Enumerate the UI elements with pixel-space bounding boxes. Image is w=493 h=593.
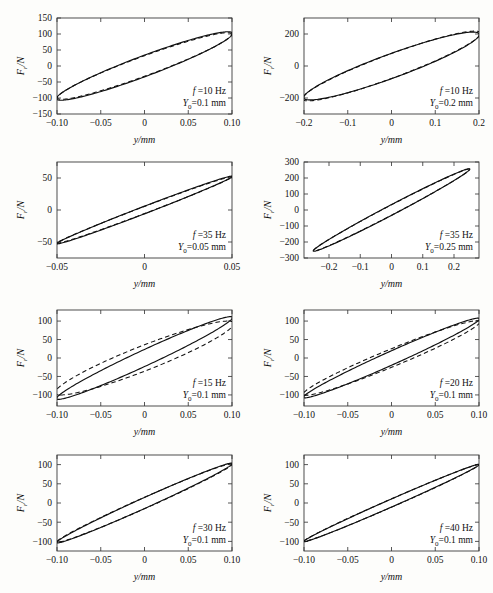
x-tick-label: 0.10 bbox=[224, 118, 241, 128]
plot-panel-panel-35hz-005: −0.0500.05−50050y/mmFr/Nf =35 HzY0=0.05 … bbox=[0, 148, 246, 296]
y-tick-label: −200 bbox=[279, 93, 299, 103]
y-tick-label: 200 bbox=[285, 173, 300, 183]
x-tick-label: 0.05 bbox=[180, 118, 197, 128]
x-tick-label: −0.05 bbox=[337, 555, 359, 565]
y-tick-label: 100 bbox=[285, 316, 300, 326]
y-tick-label: 100 bbox=[285, 460, 300, 470]
y-tick-label: 200 bbox=[285, 29, 300, 39]
y-tick-label: 0 bbox=[47, 498, 52, 508]
y-tick-label: −50 bbox=[37, 77, 52, 87]
y-tick-label: 0 bbox=[294, 205, 299, 215]
x-tick-label: −0.05 bbox=[46, 262, 68, 272]
y-axis-title: Fr/N bbox=[262, 493, 276, 514]
x-tick-label: 0.2 bbox=[448, 262, 460, 272]
x-tick-label: 0 bbox=[142, 262, 147, 272]
x-tick-label: 0.10 bbox=[471, 410, 488, 420]
y-tick-label: 0 bbox=[294, 61, 299, 71]
y-tick-label: 50 bbox=[43, 335, 53, 345]
y-tick-label: −300 bbox=[279, 253, 299, 263]
plot-panel-panel-15hz-01: −0.10−0.0500.050.10−100−50050100y/mmFr/N… bbox=[0, 296, 246, 444]
y-tick-label: −200 bbox=[279, 237, 299, 247]
x-tick-label: −0.10 bbox=[46, 555, 68, 565]
y-tick-label: −50 bbox=[37, 518, 52, 528]
panel-annotation: f =35 Hz bbox=[440, 230, 473, 240]
y-tick-label: 100 bbox=[38, 316, 53, 326]
y-tick-label: −50 bbox=[284, 518, 299, 528]
y-tick-label: 50 bbox=[290, 479, 300, 489]
y-axis-title: Fr/N bbox=[15, 493, 29, 514]
y-tick-label: −50 bbox=[37, 372, 52, 382]
x-tick-label: −0.10 bbox=[46, 118, 68, 128]
x-tick-label: 0.2 bbox=[473, 118, 485, 128]
y-axis-title: Fr/N bbox=[15, 348, 29, 369]
x-axis-title: y/mm bbox=[133, 426, 156, 437]
y-tick-label: 0 bbox=[294, 353, 299, 363]
x-tick-label: −0.05 bbox=[90, 555, 112, 565]
hysteresis-loop-figure: −0.10−0.0500.050.10−150−100−50050100150y… bbox=[0, 0, 493, 593]
y-tick-label: −100 bbox=[279, 221, 299, 231]
x-tick-label: −0.10 bbox=[46, 410, 68, 420]
y-axis-title: Fr/N bbox=[262, 200, 276, 221]
panel-annotation: f =10 Hz bbox=[193, 86, 226, 96]
panel-annotation: f =30 Hz bbox=[193, 523, 226, 533]
y-tick-label: 0 bbox=[294, 498, 299, 508]
panel-annotation: f =35 Hz bbox=[193, 230, 226, 240]
x-tick-label: 0.10 bbox=[224, 555, 241, 565]
panel-annotation: f =15 Hz bbox=[193, 378, 226, 388]
y-axis-title: Fr/N bbox=[262, 56, 276, 77]
y-tick-label: −100 bbox=[32, 390, 52, 400]
x-tick-label: −0.1 bbox=[339, 118, 356, 128]
y-tick-label: 100 bbox=[38, 29, 53, 39]
y-tick-label: 0 bbox=[47, 205, 52, 215]
y-tick-label: −100 bbox=[32, 537, 52, 547]
y-tick-label: −100 bbox=[279, 537, 299, 547]
x-tick-label: 0.1 bbox=[429, 118, 441, 128]
panel-annotation: f =40 Hz bbox=[440, 523, 473, 533]
y-tick-label: 100 bbox=[285, 189, 300, 199]
x-tick-label: −0.10 bbox=[293, 555, 315, 565]
x-tick-label: 0.05 bbox=[427, 410, 444, 420]
x-tick-label: 0 bbox=[389, 555, 394, 565]
y-tick-label: −150 bbox=[32, 109, 52, 119]
y-tick-label: 300 bbox=[285, 157, 300, 167]
y-axis-title: Fr/N bbox=[15, 200, 29, 221]
x-axis-title: y/mm bbox=[380, 278, 403, 289]
x-tick-label: 0.10 bbox=[224, 410, 241, 420]
x-tick-label: 0 bbox=[389, 118, 394, 128]
y-axis-title: Fr/N bbox=[262, 348, 276, 369]
y-tick-label: 50 bbox=[43, 45, 53, 55]
plot-panel-panel-10hz-02: −0.2−0.100.10.2−2000200y/mmFr/Nf =10 HzY… bbox=[247, 4, 493, 152]
y-tick-label: 0 bbox=[47, 61, 52, 71]
panel-annotation: f =20 Hz bbox=[440, 378, 473, 388]
y-tick-label: 50 bbox=[43, 173, 53, 183]
y-axis-title: Fr/N bbox=[15, 56, 29, 77]
x-tick-label: 0.05 bbox=[180, 410, 197, 420]
x-axis-title: y/mm bbox=[133, 571, 156, 582]
y-tick-label: 50 bbox=[43, 479, 53, 489]
y-tick-label: −50 bbox=[284, 372, 299, 382]
x-axis-title: y/mm bbox=[133, 134, 156, 145]
x-tick-label: 0 bbox=[142, 555, 147, 565]
y-tick-label: −100 bbox=[279, 390, 299, 400]
x-tick-label: −0.2 bbox=[320, 262, 337, 272]
y-tick-label: 50 bbox=[290, 335, 300, 345]
plot-panel-panel-10hz-01: −0.10−0.0500.050.10−150−100−50050100150y… bbox=[0, 4, 246, 152]
x-tick-label: −0.05 bbox=[90, 410, 112, 420]
x-tick-label: −0.1 bbox=[352, 262, 369, 272]
x-tick-label: 0 bbox=[389, 262, 394, 272]
x-tick-label: −0.05 bbox=[337, 410, 359, 420]
x-tick-label: 0 bbox=[142, 118, 147, 128]
y-tick-label: −100 bbox=[32, 93, 52, 103]
x-tick-label: 0 bbox=[389, 410, 394, 420]
x-axis-title: y/mm bbox=[380, 571, 403, 582]
y-tick-label: 100 bbox=[38, 460, 53, 470]
plot-panel-panel-30hz-01: −0.10−0.0500.050.10−100−50050100y/mmFr/N… bbox=[0, 441, 246, 589]
x-tick-label: −0.10 bbox=[293, 410, 315, 420]
x-tick-label: −0.2 bbox=[295, 118, 312, 128]
x-tick-label: 0.05 bbox=[224, 262, 241, 272]
x-axis-title: y/mm bbox=[380, 426, 403, 437]
x-tick-label: −0.05 bbox=[90, 118, 112, 128]
x-tick-label: 0.05 bbox=[180, 555, 197, 565]
y-tick-label: 0 bbox=[47, 353, 52, 363]
x-tick-label: 0.1 bbox=[417, 262, 429, 272]
